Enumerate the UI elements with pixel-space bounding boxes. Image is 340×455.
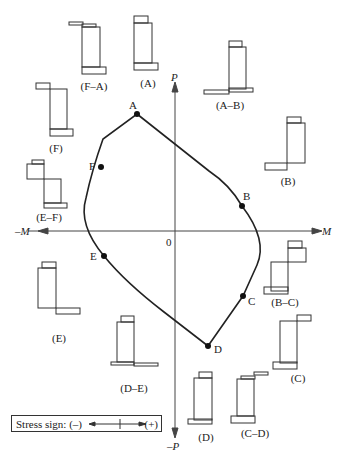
stress-diagram-f [36,83,73,136]
m-axis-arrow-icon [312,228,322,234]
point-d-marker [205,343,211,349]
curve-points [98,111,246,349]
stress-diagram-b-label: (B) [281,176,296,187]
stress-diagram-f-a-label: (F–A) [81,81,108,92]
point-c-marker [240,293,246,299]
stress-diagram-c-label: (C) [291,373,306,384]
point-f-marker [98,164,104,170]
stress-diagram-d-label: (D) [198,432,213,443]
stress-diagram-d [188,372,212,424]
point-f-label: F [89,161,95,172]
stress-diagram-e-f [27,160,67,208]
interaction-curve [84,114,260,346]
stress-diagram-f-a [69,22,106,74]
stress-diagram-d-e-label: (D–E) [120,383,148,394]
stress-diagram-e [38,262,80,314]
stress-diagram-a [134,16,158,70]
neg-m-axis-label: –M [15,226,30,237]
point-b-label: B [243,191,250,202]
m-axis-label: M [322,226,331,237]
stress-diagram-c [273,315,311,369]
interaction-diagram [0,0,340,455]
stress-diagram-a-label: (A) [140,78,155,89]
stress-sign-legend: Stress sign: (–) (+) [11,415,162,432]
point-c-label: C [248,296,255,307]
stress-diagram-b-c [264,241,306,294]
point-e-label: E [90,251,97,262]
point-d-label: D [214,344,222,355]
stress-diagram-a-b [204,41,253,94]
point-a-marker [134,111,140,117]
p-axis-arrow-icon [172,82,178,92]
stress-diagram-c-d [231,372,268,423]
stress-diagram-f-label: (F) [49,143,62,154]
neg-p-axis-label: –P [167,441,179,452]
stress-diagram-b [265,117,305,170]
stress-diagram-d-e [111,316,158,366]
legend-text: Stress sign: (–) [16,418,82,430]
origin-label: 0 [166,237,172,248]
neg-m-axis-arrow-icon [38,228,48,234]
neg-p-axis-arrow-icon [172,428,178,438]
point-b-marker [239,203,245,209]
point-a-label: A [129,100,137,111]
stress-diagram-e-label: (E) [52,333,66,344]
p-axis-label: P [171,72,178,83]
stress-diagram-c-d-label: (C–D) [241,428,269,439]
point-e-marker [101,253,107,259]
stress-diagram-b-c-label: (B–C) [271,297,299,308]
stress-diagram-a-b-label: (A–B) [216,100,244,111]
legend-plus: (+) [144,418,158,430]
axes [28,82,322,438]
stress-diagram-e-f-label: (E–F) [36,212,62,223]
